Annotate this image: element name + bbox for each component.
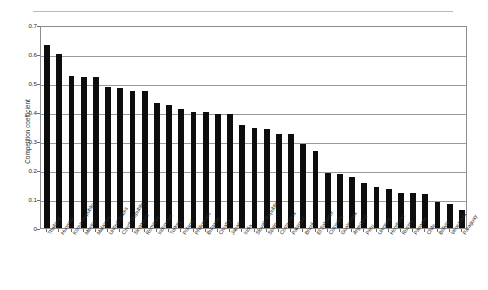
plot-area [40,26,467,229]
y-axis-tick-label: 0 [3,226,37,232]
bar [374,187,380,228]
bar [227,114,233,228]
bar [191,112,197,228]
bar [215,114,221,228]
bar [313,151,319,228]
bar [154,103,160,228]
y-axis-tick-label: 0.2 [3,168,37,174]
header-divider [33,11,453,12]
competition-coefficient-bar-chart: Competition coefficient 00.10.20.30.40.5… [0,0,488,290]
bar-series [41,27,466,228]
bar [178,109,184,228]
bar [44,45,50,228]
y-axis-tick-label: 0.3 [3,139,37,145]
bar [81,77,87,228]
y-axis-tick-label: 0.5 [3,81,37,87]
y-axis-tick-label: 0.4 [3,110,37,116]
y-axis-tick-label: 0.6 [3,52,37,58]
bar [166,105,172,228]
y-axis-tick-label: 0.7 [3,23,37,29]
bar [239,125,245,228]
bar [105,87,111,228]
bar [276,134,282,228]
y-axis-tick-mark [37,229,40,230]
bar [56,54,62,228]
bar [69,76,75,228]
y-axis-tick-label: 0.1 [3,197,37,203]
bar [252,128,258,228]
